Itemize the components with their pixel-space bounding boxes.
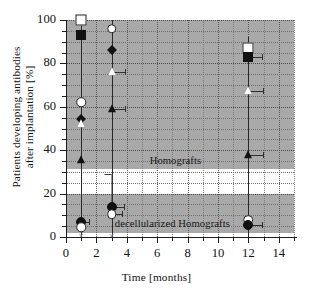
gridline-horizontal [66, 194, 294, 195]
x-axis-tick-label: 12 [233, 246, 263, 261]
y-axis-tick [62, 204, 66, 205]
y-axis-tick [62, 96, 66, 97]
marker-square [76, 15, 87, 26]
x-axis-tick [127, 237, 128, 243]
x-axis-tick [248, 237, 249, 243]
x-axis-tick-label: 6 [142, 246, 172, 261]
series-stem [81, 20, 82, 237]
gridline-horizontal [66, 139, 294, 140]
x-axis-tick-label: 2 [81, 246, 111, 261]
x-axis-tick [203, 237, 204, 241]
gridline-horizontal [66, 96, 294, 97]
gridline-horizontal [66, 74, 294, 75]
x-axis-tick [142, 237, 143, 241]
y-axis-tick [62, 53, 66, 54]
plot-annotation: Homografts [150, 154, 202, 165]
x-axis-title: Time [months] [0, 271, 313, 283]
marker-square [243, 52, 253, 62]
x-axis-tick [233, 237, 234, 241]
marker-triangle [108, 67, 116, 75]
y-axis-tick [62, 172, 66, 173]
marker-triangle [77, 120, 85, 128]
marker-triangle [77, 155, 85, 163]
x-axis-tick-label: 4 [112, 246, 142, 261]
x-axis-tick [294, 237, 295, 241]
y-axis-tick-label: 40 [16, 142, 56, 157]
x-axis-tick [81, 237, 82, 241]
y-axis-tick [62, 161, 66, 162]
gridline-horizontal [66, 107, 294, 108]
error-bar-cap-horizontal [89, 219, 90, 225]
y-axis-tick [62, 31, 66, 32]
x-axis-tick-label: 10 [203, 246, 233, 261]
x-axis-tick [264, 237, 265, 241]
x-axis-tick [96, 237, 97, 243]
y-axis-tick [62, 139, 66, 140]
error-bar-cap-horizontal [262, 54, 263, 60]
x-axis-tick [157, 237, 158, 243]
y-axis-tick [60, 63, 66, 64]
gridline-horizontal [66, 20, 294, 21]
x-axis-tick [66, 237, 67, 243]
y-axis-tick [62, 118, 66, 119]
y-axis-tick [62, 129, 66, 130]
y-axis-tick-label: 20 [16, 186, 56, 201]
y-axis-line [66, 20, 67, 238]
series-stem [248, 37, 249, 237]
gridline-horizontal [66, 215, 294, 216]
plot-area: ××Homograftsdecellularized Homografts [66, 20, 294, 237]
gridline-horizontal [66, 118, 294, 119]
gridline-horizontal [66, 204, 294, 205]
x-axis-tick [172, 237, 173, 241]
y-axis-tick-label: 60 [16, 99, 56, 114]
y-axis-tick [62, 74, 66, 75]
y-axis-tick [62, 85, 66, 86]
marker-circle [107, 24, 117, 34]
error-bar-cap-horizontal [125, 69, 126, 75]
error-bar-cap-horizontal [125, 106, 126, 112]
x-axis-tick [218, 237, 219, 243]
gridline-horizontal [66, 183, 294, 184]
x-axis-tick-label: 0 [51, 246, 81, 261]
y-axis-tick [62, 226, 66, 227]
gridline-horizontal [66, 129, 294, 130]
y-axis-tick [60, 150, 66, 151]
error-bar-cap-horizontal [263, 88, 264, 94]
error-bar-cap-horizontal [263, 152, 264, 158]
x-axis-tick [279, 237, 280, 243]
gridline-horizontal [66, 172, 294, 173]
y-axis-tick [60, 194, 66, 195]
y-axis-tick [62, 183, 66, 184]
y-axis-tick-label: 0 [16, 229, 56, 244]
chart-figure: Patients developing antibodies after imp… [0, 0, 313, 296]
marker-circle [76, 98, 86, 108]
x-axis-line [66, 237, 297, 238]
plot-annotation: decellularized Homografts [115, 217, 230, 228]
error-bar-cap-horizontal [122, 211, 123, 217]
gridline-horizontal [66, 63, 294, 64]
x-axis-tick [112, 237, 113, 241]
y-axis-tick [60, 107, 66, 108]
error-bar-cap-horizontal [124, 204, 125, 210]
error-bar-cap [105, 174, 112, 175]
gridline-horizontal [66, 53, 294, 54]
marker-triangle [244, 86, 252, 94]
gridline-horizontal [66, 42, 294, 43]
x-axis-tick-label: 8 [173, 246, 203, 261]
gridline-vertical [294, 20, 295, 237]
x-axis-tick [188, 237, 189, 243]
y-axis-tick [62, 42, 66, 43]
y-axis-tick [62, 215, 66, 216]
y-axis-tick [60, 20, 66, 21]
gridline-horizontal [66, 31, 294, 32]
y-axis-tick-label: 100 [16, 12, 56, 27]
x-axis-tick-label: 14 [264, 246, 294, 261]
gridline-horizontal [66, 150, 294, 151]
marker-square [76, 30, 86, 40]
marker-triangle [108, 104, 116, 112]
gridline-horizontal [66, 85, 294, 86]
marker-triangle [244, 150, 252, 158]
y-axis-tick-label: 80 [16, 55, 56, 70]
error-bar-cap-horizontal [262, 222, 263, 228]
marker-circle [243, 220, 253, 230]
